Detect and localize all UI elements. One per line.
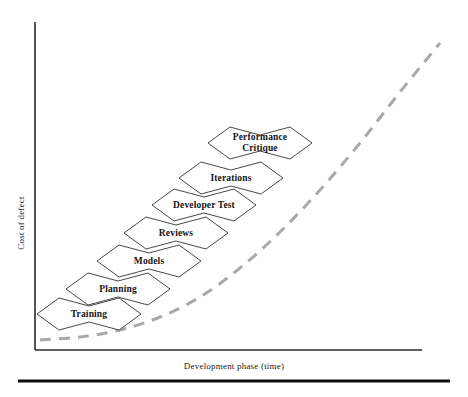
cost-of-defect-figure: TrainingPlanningModelsReviewsDeveloper T… bbox=[0, 0, 468, 397]
hexagon-models bbox=[97, 245, 201, 277]
hexagon-developer-test bbox=[152, 189, 256, 221]
hexagon-iterations bbox=[179, 162, 283, 194]
hexagon-shapes-layer bbox=[37, 127, 312, 330]
hexagon-performance-critique bbox=[208, 127, 312, 159]
chart-canvas bbox=[0, 0, 468, 397]
x-axis-label: Development phase (time) bbox=[184, 361, 284, 371]
hexagon-reviews bbox=[124, 217, 228, 249]
y-axis-label: Cost of defect bbox=[16, 196, 26, 249]
